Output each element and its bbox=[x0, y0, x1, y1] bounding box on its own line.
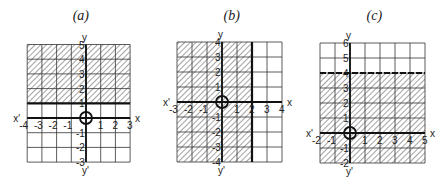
panel-title: (a) bbox=[73, 8, 90, 24]
panel-a-graph: (a)-4-3-2-1123-3-2-112345yy'xx' bbox=[13, 8, 140, 176]
svg-text:5: 5 bbox=[422, 135, 428, 146]
y-axis-label: y bbox=[82, 32, 87, 43]
x-prime-label: x' bbox=[13, 113, 20, 124]
svg-text:3: 3 bbox=[79, 69, 85, 80]
svg-text:4: 4 bbox=[279, 104, 285, 115]
svg-text:1: 1 bbox=[79, 98, 85, 109]
svg-text:-1: -1 bbox=[63, 120, 72, 131]
svg-text:1: 1 bbox=[343, 113, 349, 124]
panel-c-graph: (c)-2-112345-2-1123456yy'xx' bbox=[306, 8, 435, 177]
svg-text:-2: -2 bbox=[312, 135, 321, 146]
svg-text:3: 3 bbox=[215, 52, 221, 63]
svg-text:-2: -2 bbox=[76, 142, 85, 153]
svg-text:-2: -2 bbox=[212, 127, 221, 138]
svg-text:3: 3 bbox=[392, 135, 398, 146]
svg-text:1: 1 bbox=[98, 120, 104, 131]
y-prime-label: y' bbox=[346, 166, 353, 177]
x-prime-label: x' bbox=[163, 97, 170, 108]
y-axis-label: y bbox=[346, 30, 351, 41]
svg-text:2: 2 bbox=[79, 84, 85, 95]
svg-text:3: 3 bbox=[127, 120, 133, 131]
y-prime-label: y' bbox=[82, 165, 89, 176]
y-prime-label: y' bbox=[218, 165, 225, 176]
svg-text:-1: -1 bbox=[199, 104, 208, 115]
svg-text:3: 3 bbox=[264, 104, 270, 115]
panel-b-graph: (b)-3-2-11234-4-3-2-11234yy'xx' bbox=[163, 8, 292, 176]
svg-text:-4: -4 bbox=[19, 120, 28, 131]
svg-text:4: 4 bbox=[407, 135, 413, 146]
svg-text:-3: -3 bbox=[169, 104, 178, 115]
svg-text:2: 2 bbox=[249, 104, 255, 115]
inequality-graphs-figure: (a)-4-3-2-1123-3-2-112345yy'xx' (b)-3-2-… bbox=[0, 0, 444, 191]
panel-title: (c) bbox=[367, 8, 383, 24]
x-axis-label: x bbox=[287, 97, 292, 108]
svg-text:2: 2 bbox=[215, 67, 221, 78]
svg-text:2: 2 bbox=[377, 135, 383, 146]
svg-text:4: 4 bbox=[343, 68, 349, 79]
svg-text:-1: -1 bbox=[76, 128, 85, 139]
svg-text:4: 4 bbox=[79, 54, 85, 65]
svg-text:1: 1 bbox=[215, 82, 221, 93]
svg-text:-1: -1 bbox=[327, 135, 336, 146]
svg-text:2: 2 bbox=[112, 120, 118, 131]
x-prime-label: x' bbox=[306, 128, 313, 139]
svg-text:5: 5 bbox=[343, 53, 349, 64]
svg-text:2: 2 bbox=[343, 98, 349, 109]
svg-text:-2: -2 bbox=[184, 104, 193, 115]
svg-text:-3: -3 bbox=[34, 120, 43, 131]
svg-text:-2: -2 bbox=[49, 120, 58, 131]
svg-text:1: 1 bbox=[362, 135, 368, 146]
svg-text:3: 3 bbox=[343, 83, 349, 94]
svg-text:-3: -3 bbox=[212, 142, 221, 153]
panel-title: (b) bbox=[224, 8, 241, 24]
x-axis-label: x bbox=[430, 128, 435, 139]
x-axis-label: x bbox=[135, 113, 140, 124]
svg-text:-1: -1 bbox=[212, 112, 221, 123]
svg-text:1: 1 bbox=[234, 104, 240, 115]
svg-text:-1: -1 bbox=[340, 143, 349, 154]
y-axis-label: y bbox=[218, 29, 223, 40]
